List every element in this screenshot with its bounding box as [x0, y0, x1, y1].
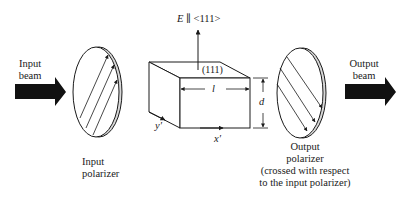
- length-label: l: [212, 83, 215, 95]
- input-beam-label-line1: Input: [10, 58, 50, 70]
- x-axis-label: x′: [214, 133, 221, 145]
- input-polarizer: [73, 47, 122, 137]
- output-polarizer-label-line2: polarizer: [250, 153, 360, 165]
- crystal-face-label: (111): [202, 64, 223, 76]
- input-beam-label-line2: beam: [10, 70, 50, 82]
- crystal-block: [149, 62, 250, 128]
- input-polarizer-label-line2: polarizer: [82, 168, 119, 180]
- field-label-direction: ∥ <111>: [183, 13, 220, 24]
- y-axis-label: y′: [155, 120, 162, 132]
- input-polarizer-label-line1: Input: [82, 156, 119, 168]
- output-polarizer: [277, 48, 326, 138]
- output-polarizer-label-line1: Output: [250, 141, 360, 153]
- output-beam-label-line2: beam: [339, 70, 389, 82]
- output-polarizer-label-line3: (crossed with respect: [250, 165, 360, 177]
- output-beam-label-line1: Output: [339, 58, 389, 70]
- output-polarizer-label-line4: to the input polarizer): [250, 177, 360, 189]
- thickness-label: d: [259, 96, 264, 108]
